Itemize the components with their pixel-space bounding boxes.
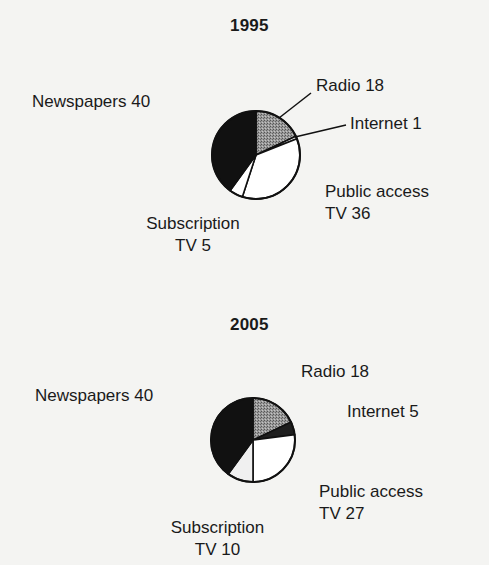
label-newspapers-1995: Newspapers 40 <box>32 91 150 113</box>
label-internet-2005: Internet 5 <box>347 401 419 423</box>
pie-slice-public-access-tv <box>253 435 295 482</box>
label-subscription-1995-line2: TV 5 <box>128 235 258 257</box>
chart-title-1995: 1995 <box>230 16 269 36</box>
label-public-access-2005: Public access TV 27 <box>319 481 423 525</box>
label-radio-1995: Radio 18 <box>316 75 384 97</box>
label-newspapers-2005: Newspapers 40 <box>35 385 153 407</box>
leader-line-internet <box>295 125 346 137</box>
label-subscription-2005: Subscription TV 10 <box>150 517 285 561</box>
leader-line-radio <box>279 93 311 118</box>
label-public-access-2005-line1: Public access <box>319 481 423 503</box>
chart-title-2005: 2005 <box>230 315 269 335</box>
label-subscription-2005-line1: Subscription <box>150 517 285 539</box>
pie-2005 <box>211 398 295 482</box>
label-subscription-2005-line2: TV 10 <box>150 539 285 561</box>
label-public-access-2005-line2: TV 27 <box>319 503 423 525</box>
pie-1995 <box>212 111 300 199</box>
label-radio-2005: Radio 18 <box>301 361 369 383</box>
label-public-access-1995-line1: Public access <box>325 181 429 203</box>
label-public-access-1995: Public access TV 36 <box>325 181 429 225</box>
label-internet-1995: Internet 1 <box>350 113 422 135</box>
label-public-access-1995-line2: TV 36 <box>325 203 429 225</box>
label-subscription-1995-line1: Subscription <box>128 213 258 235</box>
label-subscription-1995: Subscription TV 5 <box>128 213 258 257</box>
